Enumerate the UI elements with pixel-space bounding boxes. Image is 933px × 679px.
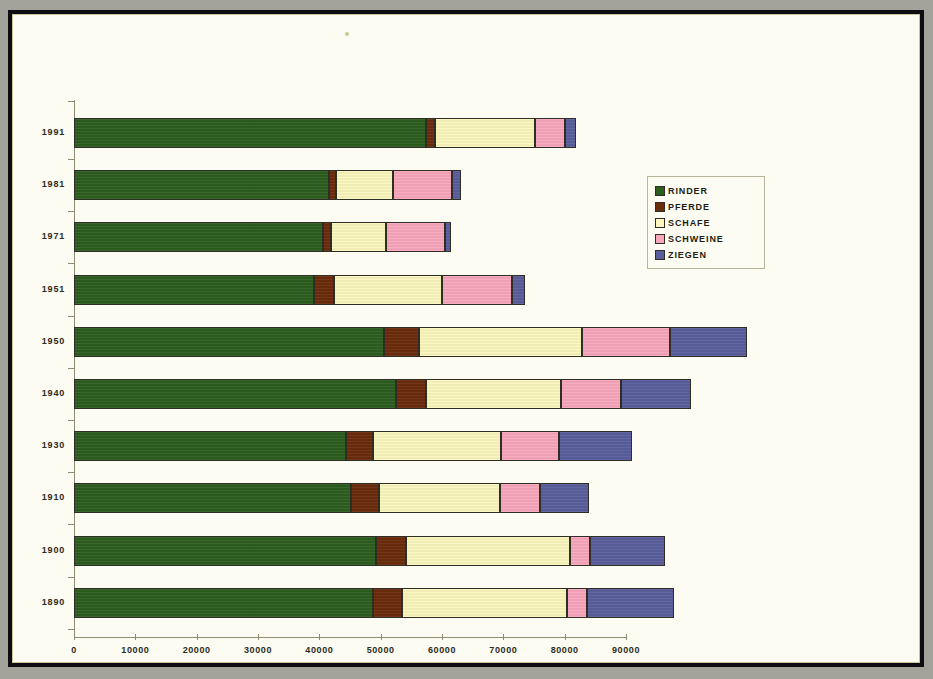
bar-segment-rinder xyxy=(74,327,384,357)
bar-segment-schweine xyxy=(386,222,445,252)
bar-segment-ziegen xyxy=(670,327,747,357)
bar-segment-schweine xyxy=(535,118,565,148)
bar-row xyxy=(13,118,921,148)
legend-swatch-icon xyxy=(655,234,665,244)
bar-segment-rinder xyxy=(74,588,373,618)
bar-segment-schafe xyxy=(379,483,499,513)
x-axis-tick-label: 20000 xyxy=(183,645,211,655)
y-axis-tick xyxy=(68,368,75,369)
x-axis-tick-label: 10000 xyxy=(121,645,149,655)
x-axis-tick xyxy=(74,634,75,640)
bar-segment-schafe xyxy=(402,588,567,618)
bar-segment-schweine xyxy=(561,379,621,409)
bar-segment-schafe xyxy=(331,222,386,252)
plot-area: 1991198119711951195019401930191019001890… xyxy=(13,15,921,664)
bar-row xyxy=(13,275,921,305)
y-axis-tick xyxy=(68,159,75,160)
chart-legend: RINDERPFERDESCHAFESCHWEINEZIEGEN xyxy=(647,176,765,269)
x-axis-tick xyxy=(135,634,136,640)
x-axis-tick-label: 60000 xyxy=(428,645,456,655)
y-axis-tick xyxy=(68,316,75,317)
bar-segment-schweine xyxy=(570,536,590,566)
legend-label: SCHAFE xyxy=(668,218,710,228)
bar-segment-rinder xyxy=(74,118,426,148)
screenshot-root: 1991198119711951195019401930191019001890… xyxy=(0,0,933,679)
x-axis-tick-label: 30000 xyxy=(244,645,272,655)
bar-segment-rinder xyxy=(74,222,323,252)
bar-segment-pferde xyxy=(373,588,401,618)
bar-segment-pferde xyxy=(346,431,373,461)
bar-segment-schafe xyxy=(419,327,582,357)
bar-segment-schweine xyxy=(393,170,452,200)
x-axis-line xyxy=(74,637,627,638)
x-axis-tick xyxy=(381,634,382,640)
bar-segment-ziegen xyxy=(590,536,665,566)
bar-segment-pferde xyxy=(396,379,426,409)
x-axis-tick xyxy=(565,634,566,640)
y-axis-tick xyxy=(68,472,75,473)
bar-segment-rinder xyxy=(74,536,376,566)
bar-row xyxy=(13,379,921,409)
legend-label: ZIEGEN xyxy=(668,250,707,260)
x-axis-tick xyxy=(319,634,320,640)
legend-item: ZIEGEN xyxy=(655,247,758,262)
bar-segment-schweine xyxy=(500,483,540,513)
legend-swatch-icon xyxy=(655,202,665,212)
bar-segment-schweine xyxy=(567,588,587,618)
legend-item: SCHWEINE xyxy=(655,231,758,246)
bar-segment-schafe xyxy=(336,170,393,200)
x-axis-tick-label: 90000 xyxy=(612,645,640,655)
bar-segment-schafe xyxy=(435,118,534,148)
bar-segment-schafe xyxy=(334,275,442,305)
y-axis-tick xyxy=(68,577,75,578)
y-axis-tick xyxy=(68,263,75,264)
x-axis-tick xyxy=(258,634,259,640)
bar-row xyxy=(13,588,921,618)
legend-label: SCHWEINE xyxy=(668,234,724,244)
y-axis-tick xyxy=(68,629,75,630)
x-axis-tick-label: 40000 xyxy=(305,645,333,655)
y-axis-tick xyxy=(68,420,75,421)
bar-segment-pferde xyxy=(426,118,435,148)
bar-segment-pferde xyxy=(376,536,406,566)
bar-segment-schweine xyxy=(442,275,512,305)
bar-segment-schafe xyxy=(406,536,569,566)
x-axis-tick xyxy=(442,634,443,640)
chart-canvas: 1991198119711951195019401930191019001890… xyxy=(12,14,920,663)
legend-label: RINDER xyxy=(668,186,708,196)
legend-swatch-icon xyxy=(655,218,665,228)
bar-segment-ziegen xyxy=(540,483,589,513)
bar-segment-rinder xyxy=(74,170,329,200)
bar-segment-schafe xyxy=(373,431,501,461)
bar-segment-pferde xyxy=(323,222,331,252)
x-axis-tick-label: 70000 xyxy=(489,645,517,655)
bar-segment-pferde xyxy=(329,170,336,200)
bar-row xyxy=(13,170,921,200)
bar-row xyxy=(13,536,921,566)
bar-row xyxy=(13,222,921,252)
bar-segment-rinder xyxy=(74,483,351,513)
bar-row xyxy=(13,327,921,357)
bar-segment-pferde xyxy=(351,483,379,513)
bar-segment-pferde xyxy=(384,327,419,357)
x-axis-tick-label: 50000 xyxy=(367,645,395,655)
x-axis-tick-label: 80000 xyxy=(551,645,579,655)
bar-segment-ziegen xyxy=(445,222,451,252)
bar-segment-ziegen xyxy=(512,275,525,305)
y-axis-tick xyxy=(68,101,75,102)
legend-item: SCHAFE xyxy=(655,215,758,230)
bar-segment-ziegen xyxy=(621,379,691,409)
bar-segment-rinder xyxy=(74,275,314,305)
legend-label: PFERDE xyxy=(668,202,710,212)
x-axis-tick xyxy=(626,634,627,640)
bar-segment-schweine xyxy=(582,327,669,357)
scan-artifact-speck xyxy=(345,32,349,36)
legend-item: RINDER xyxy=(655,183,758,198)
bar-segment-ziegen xyxy=(559,431,632,461)
legend-swatch-icon xyxy=(655,250,665,260)
bar-segment-schweine xyxy=(501,431,558,461)
y-axis-tick xyxy=(68,211,75,212)
bar-segment-rinder xyxy=(74,379,396,409)
x-axis-tick-label: 0 xyxy=(71,645,77,655)
bar-row xyxy=(13,431,921,461)
